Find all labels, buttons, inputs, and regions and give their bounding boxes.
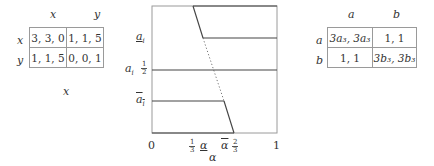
- x-tick-one: 1: [273, 140, 280, 151]
- right-cell-ba: 1, 1: [328, 48, 373, 68]
- lower-slant: [224, 101, 234, 133]
- right-row-header-a: a: [316, 35, 323, 46]
- x-tick-alpha-lower: α: [200, 140, 207, 151]
- y-tick-a-i: ai: [125, 63, 134, 77]
- right-col-header-a: a: [348, 9, 355, 20]
- y-tick-a-lower: ai: [136, 31, 145, 45]
- x-tick-zero: 0: [148, 140, 155, 151]
- y-tick-half: 12: [141, 61, 147, 76]
- right-payoff-table: 3a₃, 3a₃ 1, 1 1, 1 3b₃, 3b₃: [327, 27, 417, 68]
- x-tick-alpha-upper: α: [221, 140, 228, 151]
- right-cell-aa: 3a₃, 3a₃: [328, 28, 373, 48]
- x-tick-two-thirds: 23: [232, 139, 238, 154]
- x-tick-one-third: 13: [189, 139, 195, 154]
- right-cell-bb: 3b₃, 3b₃: [373, 48, 417, 68]
- right-cell-ab: 1, 1: [373, 28, 417, 48]
- right-row-header-b: b: [316, 55, 323, 66]
- y-tick-a-upper: ai: [136, 94, 145, 108]
- right-col-header-b: b: [393, 9, 400, 20]
- upper-slant: [193, 6, 203, 38]
- x-axis-label: α: [209, 152, 216, 163]
- graph-plot: [0, 0, 434, 166]
